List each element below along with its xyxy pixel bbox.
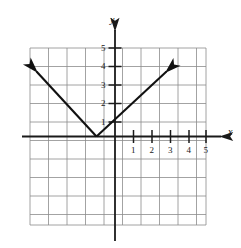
graph-canvas [0,0,241,248]
y-tick-label-1: 1 [101,118,106,127]
x-tick-label-2: 2 [150,146,155,155]
y-tick-label-3: 3 [101,81,106,90]
x-tick-label-3: 3 [168,146,173,155]
coordinate-graph-figure: 1 2 3 4 5 1 2 3 4 5 x y [0,0,241,248]
x-tick-label-5: 5 [204,146,209,155]
y-tick-label-2: 2 [101,99,106,108]
y-tick-label-4: 4 [101,62,106,71]
x-axis-label: x [228,127,232,137]
x-tick-label-4: 4 [187,146,192,155]
x-tick-label-1: 1 [131,146,136,155]
y-axis-label: y [110,15,114,25]
y-tick-label-5: 5 [101,44,106,53]
